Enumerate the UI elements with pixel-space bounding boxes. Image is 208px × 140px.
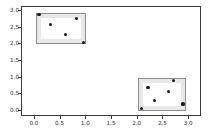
y-tick-label: 3.0 [10,7,19,14]
data-point [37,13,40,16]
x-tick-label: 0.5 [55,120,64,127]
x-tick-mark [85,116,86,119]
y-tick-label: 2.0 [10,40,19,47]
y-tick-label: 1.0 [10,73,19,80]
y-tick-label: 2.5 [10,23,19,30]
scatter-plot-figure: 0.00.51.01.52.02.53.00.00.51.01.52.02.53… [0,0,208,140]
x-tick-mark [60,116,61,119]
plot-area [21,6,201,116]
x-tick-label: 2.0 [132,120,141,127]
data-point [75,17,78,20]
x-tick-label: 1.0 [81,120,90,127]
cluster-2-bounds [138,78,186,110]
y-tick-label: 1.5 [10,57,19,64]
x-tick-mark [34,116,35,119]
y-tick-label: 0.5 [10,90,19,97]
x-tick-mark [162,116,163,119]
x-tick-label: 3.0 [184,120,193,127]
x-tick-label: 2.5 [158,120,167,127]
data-point [181,102,184,105]
x-tick-mark [188,116,189,119]
x-tick-label: 0.0 [29,120,38,127]
data-point [146,86,149,89]
y-tick-label: 0.0 [10,107,19,114]
cluster-box-interior [41,18,81,40]
data-point [172,79,175,82]
x-tick-mark [137,116,138,119]
data-point [153,99,156,102]
x-tick-label: 1.5 [107,120,116,127]
cluster-1-bounds [36,13,86,45]
data-point [82,41,85,44]
x-tick-mark [111,116,112,119]
